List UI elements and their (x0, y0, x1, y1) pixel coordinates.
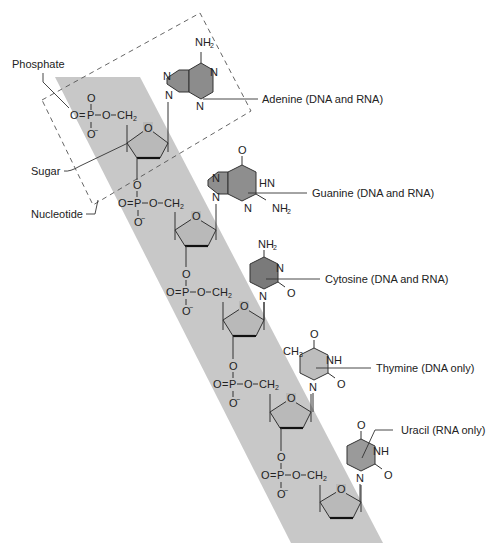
svg-text:O: O (337, 483, 346, 495)
svg-text:N: N (259, 290, 267, 302)
svg-text:O: O (192, 210, 201, 222)
svg-text:2: 2 (273, 244, 277, 251)
cytosine-label: Cytosine (DNA and RNA) (325, 273, 449, 285)
phosphate-label: Phosphate (12, 58, 65, 70)
sugar-label: Sugar (31, 165, 61, 177)
uracil-label: Uracil (RNA only) (401, 424, 485, 436)
svg-text:NH: NH (373, 445, 389, 457)
svg-text:P: P (87, 109, 94, 121)
svg-text:−: − (236, 396, 240, 403)
svg-text:O: O (102, 109, 111, 121)
svg-text:N: N (212, 191, 220, 203)
svg-text:2: 2 (323, 475, 327, 482)
svg-text:=: = (270, 469, 276, 481)
adenine-label: Adenine (DNA and RNA) (262, 93, 383, 105)
svg-text:O: O (337, 378, 346, 390)
nucleic-acid-diagram: O O = P O CH 2 O − O NH 2 N N N N Adenin… (0, 0, 493, 558)
svg-text:O: O (149, 197, 158, 209)
svg-text:P: P (277, 469, 284, 481)
svg-text:2: 2 (210, 42, 214, 49)
svg-text:O: O (261, 469, 270, 481)
guanine-base: O HN N N N NH 2 (208, 144, 291, 215)
svg-text:NH: NH (326, 354, 342, 366)
svg-text:−: − (189, 304, 193, 311)
svg-text:N: N (212, 172, 220, 184)
svg-text:CH: CH (259, 378, 275, 390)
svg-text:O: O (238, 144, 247, 156)
svg-text:2: 2 (133, 115, 137, 122)
svg-text:2: 2 (287, 208, 291, 215)
svg-text:2: 2 (228, 292, 232, 299)
svg-text:O: O (357, 419, 366, 431)
svg-text:P: P (182, 286, 189, 298)
svg-text:O: O (240, 300, 249, 312)
svg-text:O: O (182, 268, 191, 280)
svg-text:CH: CH (307, 469, 323, 481)
svg-text:O: O (118, 197, 127, 209)
svg-text:2: 2 (275, 384, 279, 391)
svg-text:O: O (384, 469, 393, 481)
svg-text:N: N (356, 472, 364, 484)
svg-text:CH: CH (164, 197, 180, 209)
svg-text:O: O (287, 287, 296, 299)
svg-text:O: O (213, 378, 222, 390)
svg-text:O: O (287, 392, 296, 404)
svg-text:NH: NH (258, 238, 274, 250)
guanine-label: Guanine (DNA and RNA) (312, 187, 434, 199)
svg-text:N: N (276, 262, 284, 274)
svg-text:O: O (166, 286, 175, 298)
svg-text:=: = (127, 197, 133, 209)
svg-text:N: N (309, 381, 317, 393)
svg-text:CH: CH (283, 345, 299, 357)
svg-text:3: 3 (299, 351, 303, 358)
thymine-label: Thymine (DNA only) (376, 362, 474, 374)
svg-text:P: P (134, 197, 141, 209)
svg-text:O: O (292, 469, 301, 481)
svg-text:CH: CH (117, 109, 133, 121)
svg-text:CH: CH (212, 286, 228, 298)
svg-text:O: O (197, 286, 206, 298)
svg-text:N: N (196, 100, 204, 112)
svg-text:N: N (210, 66, 218, 78)
svg-text:O: O (87, 92, 96, 104)
svg-text:O: O (229, 360, 238, 372)
sugar-phosphate-backbone-band (55, 77, 383, 543)
svg-text:=: = (222, 378, 228, 390)
svg-text:O: O (70, 109, 79, 121)
svg-text:−: − (141, 215, 145, 222)
svg-text:HN: HN (259, 177, 275, 189)
svg-text:2: 2 (180, 203, 184, 210)
svg-text:O: O (144, 122, 153, 134)
svg-text:=: = (79, 109, 85, 121)
svg-text:−: − (94, 127, 98, 134)
svg-text:N: N (244, 202, 252, 214)
svg-text:O: O (310, 328, 319, 340)
svg-text:NH: NH (195, 36, 211, 48)
svg-text:O: O (133, 179, 142, 191)
svg-text:N: N (165, 89, 173, 101)
svg-text:P: P (229, 378, 236, 390)
svg-text:NH: NH (272, 202, 288, 214)
svg-text:O: O (244, 378, 253, 390)
svg-text:−: − (284, 487, 288, 494)
adenine-base: NH 2 N N N N (163, 36, 218, 125)
svg-text:=: = (175, 286, 181, 298)
nucleotide-label: Nucleotide (31, 208, 83, 220)
svg-text:O: O (277, 451, 286, 463)
svg-text:N: N (163, 70, 171, 82)
